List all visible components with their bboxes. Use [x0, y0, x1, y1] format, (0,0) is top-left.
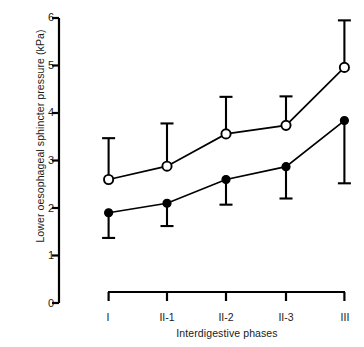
data-point-open: [104, 175, 113, 184]
data-point-open: [162, 162, 171, 171]
data-point-open: [221, 129, 230, 138]
error-bar: [161, 123, 174, 166]
data-point-filled: [163, 199, 171, 207]
error-bar: [280, 167, 293, 199]
data-point-open: [281, 121, 290, 130]
data-series-layer: [102, 20, 351, 238]
error-bar: [102, 138, 115, 179]
data-point-filled: [222, 176, 230, 184]
series-open-circles: [102, 20, 351, 184]
x-axis-bracket: [108, 292, 345, 301]
error-bar: [338, 20, 351, 67]
data-point-open: [340, 63, 349, 72]
y-axis: [52, 18, 59, 303]
data-point-filled: [341, 117, 349, 125]
error-bar: [220, 97, 233, 134]
plot-area: [0, 0, 364, 347]
data-point-filled: [105, 209, 113, 217]
chart-figure: Lower oesophageal sphincter pressure (kP…: [0, 0, 364, 347]
error-bar: [338, 121, 351, 184]
data-point-filled: [282, 163, 290, 171]
